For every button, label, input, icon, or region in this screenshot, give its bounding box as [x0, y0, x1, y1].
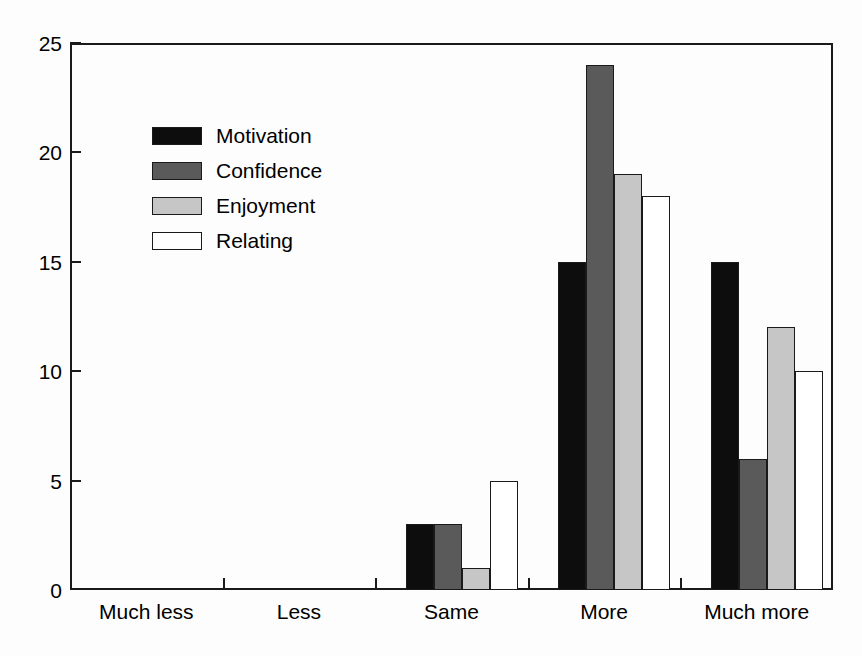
chart-legend: Motivation Confidence Enjoyment Relating — [152, 118, 322, 258]
y-axis-tick-label: 20 — [39, 142, 62, 163]
legend-entry-enjoyment: Enjoyment — [152, 188, 322, 223]
bar — [642, 196, 670, 590]
x-axis-category-label: Same — [424, 600, 479, 623]
bar — [586, 65, 614, 590]
legend-entry-relating: Relating — [152, 223, 322, 258]
y-axis-tick-mark — [70, 42, 81, 44]
bar — [614, 174, 642, 590]
legend-entry-confidence: Confidence — [152, 153, 322, 188]
bar — [711, 262, 739, 590]
x-axis-tick-mark — [223, 578, 225, 590]
legend-label-motivation: Motivation — [216, 125, 312, 146]
legend-label-relating: Relating — [216, 230, 293, 251]
bar-chart: 0510152025 Much lessLessSameMoreMuch mor… — [0, 0, 862, 656]
bar — [739, 459, 767, 590]
x-axis-tick-mark — [375, 578, 377, 590]
legend-swatch-relating — [152, 232, 202, 250]
x-axis-category-label: Much more — [704, 600, 809, 623]
y-axis-tick-label: 15 — [39, 251, 62, 272]
legend-label-confidence: Confidence — [216, 160, 322, 181]
x-axis-category-label: Much less — [99, 600, 194, 623]
bar — [406, 524, 434, 590]
x-axis-tick-mark — [680, 578, 682, 590]
y-axis-tick-label: 10 — [39, 361, 62, 382]
legend-label-enjoyment: Enjoyment — [216, 195, 315, 216]
bar — [558, 262, 586, 590]
y-axis-tick-label: 5 — [50, 470, 62, 491]
y-axis-tick-label: 25 — [39, 33, 62, 54]
bar — [490, 481, 518, 590]
y-axis: 0510152025 — [0, 0, 62, 656]
x-axis-category-label: More — [580, 600, 628, 623]
bar — [434, 524, 462, 590]
x-axis-tick-mark — [528, 578, 530, 590]
y-axis-tick-mark — [70, 480, 81, 482]
y-axis-tick-mark — [70, 370, 81, 372]
legend-swatch-enjoyment — [152, 197, 202, 215]
bar — [462, 568, 490, 590]
legend-swatch-motivation — [152, 127, 202, 145]
legend-entry-motivation: Motivation — [152, 118, 322, 153]
x-axis-category-label: Less — [277, 600, 321, 623]
legend-swatch-confidence — [152, 162, 202, 180]
y-axis-tick-label: 0 — [50, 580, 62, 601]
y-axis-tick-mark — [70, 261, 81, 263]
y-axis-tick-mark — [70, 151, 81, 153]
bar — [767, 327, 795, 590]
bar — [795, 371, 823, 590]
